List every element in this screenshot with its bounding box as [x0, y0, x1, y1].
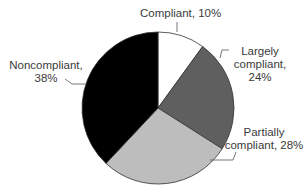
label-compliant-text: Compliant, 10% [140, 7, 221, 19]
label-compliant: Compliant, 10% [140, 7, 221, 20]
label-largely-line2: compliant, [222, 58, 298, 71]
label-largely-compliant: Largely compliant, 24% [222, 45, 298, 84]
label-partially-line1: Partially [222, 126, 306, 139]
pie-chart [0, 0, 306, 195]
label-largely-line1: Largely [222, 45, 298, 58]
label-noncompliant: Noncompliant, 38% [8, 59, 84, 85]
label-partially-compliant: Partially compliant, 28% [222, 126, 306, 152]
label-noncompliant-line2: 38% [8, 72, 84, 85]
label-noncompliant-line1: Noncompliant, [8, 59, 84, 72]
label-largely-line3: 24% [222, 71, 298, 84]
label-partially-line2: compliant, 28% [222, 139, 306, 152]
